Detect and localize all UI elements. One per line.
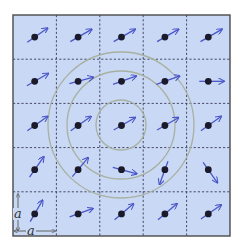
atom-dot <box>118 122 125 129</box>
atom-dot <box>75 34 82 41</box>
lattice-constant-label-y: a <box>14 206 22 221</box>
atom-dot <box>162 78 169 85</box>
atom-dot <box>31 211 38 218</box>
atom-dot <box>118 211 125 218</box>
atom-dot <box>75 78 82 85</box>
atom-dot <box>205 122 212 129</box>
atom-dot <box>205 78 212 85</box>
lattice-constant-label-x: a <box>27 223 35 238</box>
atom-dot <box>75 211 82 218</box>
atom-dot <box>162 122 169 129</box>
atom-dot <box>118 34 125 41</box>
spin-lattice-diagram: a a <box>0 0 239 250</box>
atom-dot <box>118 166 125 173</box>
atom-dot <box>162 34 169 41</box>
atom-dot <box>31 34 38 41</box>
atom-dot <box>162 166 169 173</box>
atom-dot <box>205 34 212 41</box>
atom-dot <box>31 122 38 129</box>
atom-dot <box>162 211 169 218</box>
atom-dot <box>205 166 212 173</box>
atom-dot <box>75 122 82 129</box>
atom-dot <box>31 166 38 173</box>
atom-dot <box>75 166 82 173</box>
atom-dot <box>31 78 38 85</box>
atom-dot <box>205 211 212 218</box>
atom-dot <box>118 78 125 85</box>
